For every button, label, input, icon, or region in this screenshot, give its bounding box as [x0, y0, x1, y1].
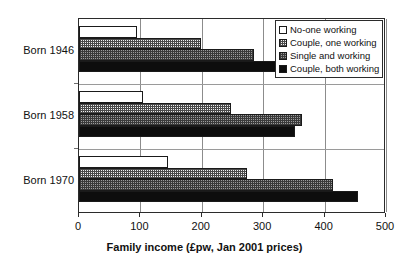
- x-axis-tick: [201, 213, 202, 217]
- x-axis-tick-label: 100: [119, 220, 159, 232]
- category-separator: [79, 149, 384, 150]
- legend-item-label: Couple, one working: [290, 37, 377, 48]
- y-axis-category-label: Born 1958: [4, 109, 74, 121]
- gridline: [386, 19, 387, 212]
- legend-swatch-icon: [279, 26, 287, 34]
- x-axis-tick: [385, 213, 386, 217]
- bar: [79, 114, 302, 126]
- x-axis-tick: [139, 213, 140, 217]
- legend-item-label: Single and working: [290, 50, 370, 61]
- legend-swatch-icon: [279, 39, 287, 47]
- bar: [79, 38, 201, 50]
- x-axis-tick-label: 0: [58, 220, 98, 232]
- x-axis-tick: [78, 213, 79, 217]
- y-axis-category-label: Born 1946: [4, 44, 74, 56]
- legend-item-label: No-one working: [290, 24, 357, 35]
- legend-item-couple-one-working: Couple, one working: [279, 36, 382, 49]
- bar: [79, 179, 333, 191]
- bar: [79, 126, 295, 138]
- legend-item-couple-both-working: Couple, both working: [279, 62, 382, 75]
- legend-swatch-icon: [279, 52, 287, 60]
- x-axis-tick: [262, 213, 263, 217]
- bar: [79, 168, 247, 180]
- x-axis-tick-label: 200: [181, 220, 221, 232]
- bar: [79, 103, 231, 115]
- legend-swatch-icon: [279, 65, 287, 73]
- bar: [79, 26, 137, 38]
- x-axis-tick-label: 500: [365, 220, 405, 232]
- legend-item-no-one-working: No-one working: [279, 23, 382, 36]
- bar-chart: 0100200300400500 Born 1946Born 1958Born …: [0, 0, 409, 266]
- y-axis-category-label: Born 1970: [4, 174, 74, 186]
- bar: [79, 91, 143, 103]
- x-axis-tick-label: 300: [242, 220, 282, 232]
- legend-item-label: Couple, both working: [290, 63, 379, 74]
- bar: [79, 61, 279, 73]
- y-axis-tick: [74, 148, 78, 149]
- x-axis-tick: [324, 213, 325, 217]
- bar: [79, 49, 254, 61]
- legend: No-one working Couple, one working Singl…: [275, 20, 383, 78]
- x-axis-title: Family income (£pw, Jan 2001 prices): [0, 241, 409, 253]
- bar: [79, 156, 168, 168]
- x-axis-tick-label: 400: [304, 220, 344, 232]
- y-axis-tick: [74, 83, 78, 84]
- category-separator: [79, 84, 384, 85]
- bar: [79, 191, 358, 203]
- legend-item-single-and-working: Single and working: [279, 49, 382, 62]
